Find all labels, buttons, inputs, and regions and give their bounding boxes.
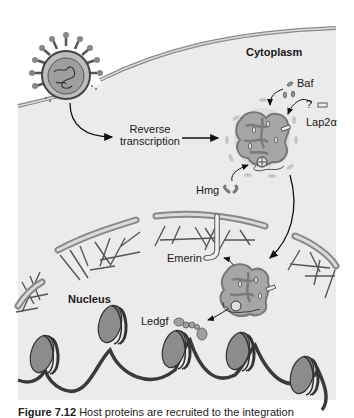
figure-number: Figure 7.12	[18, 406, 76, 418]
emerin-label: Emerin	[167, 252, 202, 264]
figure-caption: Figure 7.12 Host proteins are recruited …	[18, 406, 294, 418]
svg-text:transcription: transcription	[120, 135, 180, 147]
lap2a-protein	[318, 103, 327, 107]
lap2a-label: Lap2α	[306, 116, 337, 128]
baf-label: Baf	[297, 77, 314, 89]
nucleus-label: Nucleus	[68, 293, 111, 305]
reverse-transcription-label: Reverse	[130, 123, 171, 135]
cytoplasm-label: Cytoplasm	[246, 46, 302, 58]
ledgf-label: Ledgf	[141, 315, 169, 327]
hmg-label: Hmg	[196, 184, 219, 196]
figure-caption-text: Host proteins are recruited to the integ…	[79, 406, 294, 418]
